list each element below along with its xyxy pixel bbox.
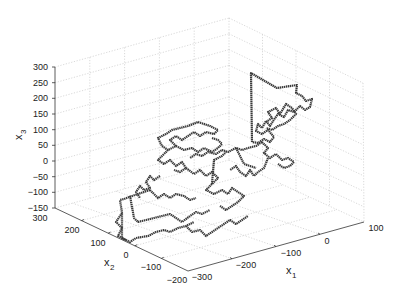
x2-tick-labels: 300 200 100 0 −100 −200 [32,213,187,285]
trajectory-series [116,73,312,242]
svg-text:0: 0 [324,236,329,246]
svg-text:0: 0 [123,250,128,260]
x2-axis-label: x 2 [104,256,115,272]
svg-text:100: 100 [33,125,48,135]
svg-text:−300: −300 [192,272,212,282]
svg-text:3: 3 [19,129,28,134]
back-left-wall-grid [55,18,229,198]
svg-text:300: 300 [32,213,47,223]
svg-text:100: 100 [90,238,105,248]
x3-ticks [52,67,55,208]
svg-text:100: 100 [368,223,383,233]
svg-text:250: 250 [33,78,48,88]
svg-text:−100: −100 [141,262,161,272]
svg-text:−150: −150 [28,203,48,213]
x3-tick-labels: 300 250 200 150 100 50 0 −50 −100 −150 [28,62,48,213]
svg-text:−100: −100 [28,187,48,197]
svg-text:−50: −50 [33,172,48,182]
svg-text:300: 300 [33,62,48,72]
svg-text:0: 0 [43,156,48,166]
svg-text:1: 1 [292,271,297,280]
x1-axis-label: x 1 [286,264,297,280]
svg-text:−100: −100 [281,248,301,258]
svg-text:−200: −200 [167,275,187,285]
svg-text:−200: −200 [236,260,256,270]
x3-axis-label: x 3 [12,129,28,140]
svg-text:150: 150 [33,109,48,119]
svg-text:200: 200 [33,93,48,103]
3d-plot: 300 250 200 150 100 50 0 −50 −100 −150 x… [0,0,400,297]
svg-text:2: 2 [110,263,115,272]
svg-text:50: 50 [38,140,48,150]
svg-text:200: 200 [64,225,79,235]
back-right-wall-grid [229,18,364,222]
x1-ticks [230,233,320,259]
